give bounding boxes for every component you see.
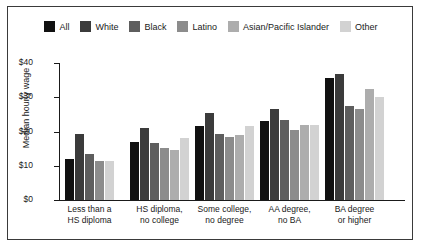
bar xyxy=(300,125,309,200)
legend-item: Other xyxy=(340,21,378,32)
bar xyxy=(85,154,94,200)
y-tick-label: $10 xyxy=(19,161,33,170)
y-axis-title: Median hourly wage xyxy=(21,60,31,156)
plot-area xyxy=(59,63,404,200)
bar xyxy=(260,121,269,200)
legend-swatch-icon xyxy=(44,21,55,32)
bar xyxy=(270,109,279,200)
legend-item: Asian/Pacific Islander xyxy=(228,21,329,32)
bar xyxy=(75,134,84,200)
bar xyxy=(365,89,374,200)
bar xyxy=(375,97,384,200)
bar-group xyxy=(260,63,319,200)
x-axis-labels: Less than aHS diplomaHS diploma,no colle… xyxy=(59,204,404,238)
legend-label: Black xyxy=(144,22,166,32)
bar xyxy=(65,159,74,200)
legend-item: All xyxy=(44,21,69,32)
bar xyxy=(335,74,344,200)
bar xyxy=(160,148,169,200)
bar xyxy=(280,120,289,200)
legend-swatch-icon xyxy=(129,21,140,32)
bar xyxy=(150,143,159,200)
bar xyxy=(345,106,354,200)
bar xyxy=(290,130,299,200)
bar xyxy=(355,109,364,200)
y-tick-label: $0 xyxy=(24,195,33,204)
bar xyxy=(325,78,334,200)
bar xyxy=(170,150,179,200)
bar-group xyxy=(195,63,254,200)
x-axis-label-line: or higher xyxy=(305,215,405,226)
bar xyxy=(215,134,224,200)
bars-layer xyxy=(59,63,404,200)
bar xyxy=(95,161,104,200)
legend-item: Latino xyxy=(177,21,217,32)
legend-item: White xyxy=(80,21,118,32)
legend-label: Latino xyxy=(192,22,217,32)
legend-swatch-icon xyxy=(177,21,188,32)
legend-swatch-icon xyxy=(80,21,91,32)
legend-label: Asian/Pacific Islander xyxy=(243,22,329,32)
x-axis-label-line: BA degree xyxy=(305,204,405,215)
x-axis-label: BA degreeor higher xyxy=(305,204,405,225)
bar xyxy=(225,137,234,200)
x-axis-line xyxy=(59,200,405,201)
bar xyxy=(140,128,149,200)
legend-item: Black xyxy=(129,21,166,32)
bar xyxy=(235,135,244,200)
chart-legend: AllWhiteBlackLatinoAsian/Pacific Islande… xyxy=(8,21,414,32)
legend-label: Other xyxy=(355,22,378,32)
bar xyxy=(205,113,214,200)
bar xyxy=(130,142,139,200)
chart-frame: AllWhiteBlackLatinoAsian/Pacific Islande… xyxy=(7,6,413,240)
legend-swatch-icon xyxy=(228,21,239,32)
bar xyxy=(245,126,254,200)
bar xyxy=(105,161,114,200)
legend-swatch-icon xyxy=(340,21,351,32)
legend-label: White xyxy=(95,22,118,32)
bar-group xyxy=(65,63,114,200)
bar-group xyxy=(130,63,189,200)
bar xyxy=(195,126,204,200)
bar xyxy=(180,138,189,200)
legend-label: All xyxy=(59,22,69,32)
bar xyxy=(310,125,319,200)
bar-group xyxy=(325,63,384,200)
y-tick-mark xyxy=(54,200,59,201)
